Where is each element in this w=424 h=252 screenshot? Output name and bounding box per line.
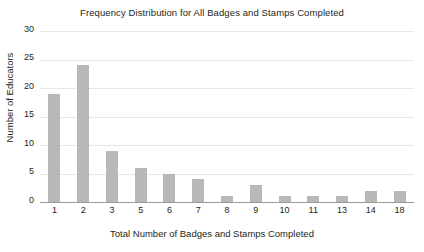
- chart-title: Frequency Distribution for All Badges an…: [0, 7, 424, 18]
- bar-slot: [299, 31, 328, 202]
- x-axis-tick-labels: 1 2 3 5 6 7 8 9 10 11 13 14 18: [40, 205, 414, 219]
- x-axis-tick: 18: [385, 205, 414, 219]
- x-axis-tick: 6: [155, 205, 184, 219]
- bar-slot: [155, 31, 184, 202]
- x-axis-tick: 14: [356, 205, 385, 219]
- bar: [106, 151, 118, 202]
- y-axis-tick-20: 20: [0, 81, 34, 91]
- bar: [192, 179, 204, 202]
- x-axis-tick: 10: [270, 205, 299, 219]
- bar: [77, 65, 89, 202]
- bar: [48, 94, 60, 202]
- bar: [250, 185, 262, 202]
- bar-slot: [69, 31, 98, 202]
- x-axis-tick: 1: [40, 205, 69, 219]
- bar: [394, 191, 406, 202]
- x-axis-tick: 13: [328, 205, 357, 219]
- x-axis-tick: 3: [98, 205, 127, 219]
- bar-slot: [241, 31, 270, 202]
- x-axis-label: Total Number of Badges and Stamps Comple…: [0, 228, 424, 239]
- bar: [365, 191, 377, 202]
- bar-series: [40, 31, 414, 202]
- y-axis-tick-30: 30: [0, 24, 34, 34]
- bar: [163, 174, 175, 203]
- bar-slot: [184, 31, 213, 202]
- x-axis-tick: 2: [69, 205, 98, 219]
- y-axis-tick-0: 0: [0, 195, 34, 205]
- bar-slot: [385, 31, 414, 202]
- bar-slot: [356, 31, 385, 202]
- bar-chart: Frequency Distribution for All Badges an…: [0, 0, 424, 252]
- bar-slot: [40, 31, 69, 202]
- bar: [135, 168, 147, 202]
- y-axis-tick-10: 10: [0, 138, 34, 148]
- x-axis-tick: 9: [241, 205, 270, 219]
- y-axis-tick-25: 25: [0, 52, 34, 62]
- x-axis-tick: 7: [184, 205, 213, 219]
- plot-area: [40, 31, 414, 202]
- x-axis-tick: 8: [213, 205, 242, 219]
- bar-slot: [328, 31, 357, 202]
- bar-slot: [98, 31, 127, 202]
- x-axis-tick: 5: [126, 205, 155, 219]
- bar-slot: [126, 31, 155, 202]
- bar-slot: [213, 31, 242, 202]
- x-axis-line: [40, 202, 414, 203]
- y-axis-tick-15: 15: [0, 109, 34, 119]
- x-axis-tick: 11: [299, 205, 328, 219]
- y-axis-tick-5: 5: [0, 166, 34, 176]
- bar-slot: [270, 31, 299, 202]
